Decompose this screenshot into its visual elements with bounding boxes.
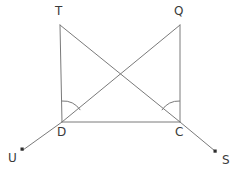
geometry-canvas [0,0,238,172]
point-dot-U [21,148,24,151]
vertex-label-S: S [222,154,230,166]
ray-CS [180,122,215,151]
segments-group [23,25,215,151]
vertex-label-U: U [8,152,17,164]
vertex-label-T: T [55,5,62,17]
vertex-label-C: C [175,126,183,138]
angle-marks-group [62,101,180,110]
geometry-figure: T Q D C U S [0,0,238,172]
endpoint-dots-group [21,148,217,153]
angle-arc-C [162,101,180,110]
vertex-label-D: D [57,126,66,138]
vertex-label-Q: Q [174,5,183,17]
point-dot-S [214,150,217,153]
segment-TD [60,25,62,122]
